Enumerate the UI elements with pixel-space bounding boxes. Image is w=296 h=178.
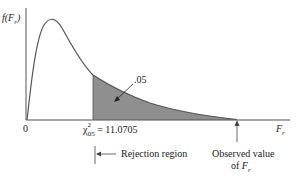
observed-value-label: Observed value	[212, 149, 274, 159]
observed-arrow-head	[235, 120, 240, 126]
y-axis-label: f(Fr)	[2, 13, 20, 26]
rejection-arrow-head	[96, 152, 101, 157]
x-axis-label: Fr	[276, 124, 285, 137]
critical-value-label: χ2.05 = 11.0705	[83, 124, 137, 138]
area-label: .05	[134, 75, 147, 85]
rejection-region-label: Rejection region	[121, 149, 187, 159]
x-origin-label: 0	[23, 124, 28, 134]
observed-value-label-2: of Fr	[231, 161, 251, 174]
rejection-area	[93, 75, 237, 120]
